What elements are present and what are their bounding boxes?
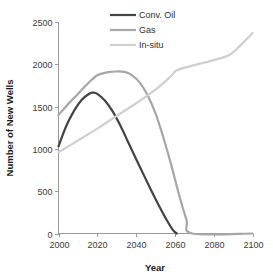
series-lines — [59, 33, 253, 235]
y-tick-label: 1500 — [32, 103, 52, 113]
x-tick-label: 2040 — [126, 240, 146, 250]
series-line-in-situ — [59, 33, 253, 152]
y-tick-label: 2500 — [32, 18, 52, 28]
x-tick-label: 2020 — [87, 240, 107, 250]
y-axis-ticks — [55, 23, 59, 235]
chart-canvas: 05001000150020002500 2000202020402060208… — [0, 0, 273, 279]
x-tick-label: 2060 — [165, 240, 185, 250]
y-tick-label: 2000 — [32, 60, 52, 70]
chart-legend: Conv. OilGasIn-situ — [110, 10, 175, 50]
x-axis-tick-labels: 200020202040206020802100 — [49, 240, 263, 250]
legend-label: Gas — [139, 25, 156, 35]
x-tick-label: 2080 — [204, 240, 224, 250]
y-tick-label: 500 — [37, 187, 52, 197]
y-tick-label: 0 — [47, 230, 52, 240]
legend-label: In-situ — [139, 40, 164, 50]
y-tick-label: 1000 — [32, 145, 52, 155]
y-axis-title: Number of New Wells — [4, 80, 15, 177]
line-chart: 05001000150020002500 2000202020402060208… — [0, 0, 273, 279]
x-tick-label: 2000 — [49, 240, 69, 250]
legend-label: Conv. Oil — [139, 10, 175, 20]
x-tick-label: 2100 — [243, 240, 263, 250]
series-line-conv-oil — [59, 93, 177, 234]
x-axis-title: Year — [145, 262, 165, 273]
y-axis-tick-labels: 05001000150020002500 — [32, 18, 52, 240]
